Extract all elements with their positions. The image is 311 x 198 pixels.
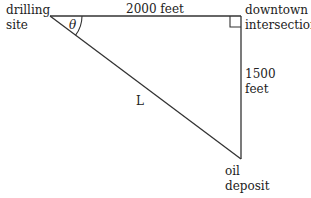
oil-deposit-label-1: oil	[225, 164, 240, 178]
angle-arc	[76, 16, 82, 35]
right-angle-marker	[230, 16, 241, 27]
hypotenuse	[50, 16, 241, 159]
drilling-site-label-1: drilling	[6, 3, 50, 17]
right-side-label-2: feet	[245, 82, 268, 96]
top-side-label: 2000 feet	[126, 2, 184, 16]
downtown-label-2: intersection	[245, 18, 311, 32]
right-side-label-1: 1500	[245, 67, 276, 81]
hypotenuse-label: L	[136, 94, 144, 108]
downtown-label-1: downtown	[245, 3, 308, 17]
theta-label: θ	[69, 18, 76, 32]
drilling-site-label-2: site	[6, 18, 28, 32]
oil-deposit-label-2: deposit	[225, 179, 270, 193]
